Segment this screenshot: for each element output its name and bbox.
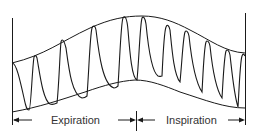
arrowhead-right-icon: [239, 118, 245, 123]
expiration-label: Expiration: [51, 114, 100, 126]
respiratory-waveform-diagram: [0, 0, 256, 140]
pressure-waveform: [12, 17, 245, 110]
lower-envelope: [12, 80, 245, 112]
arrowhead-center-right-icon: [137, 118, 143, 123]
arrowhead-center-left-icon: [130, 118, 136, 123]
arrowhead-left-icon: [13, 118, 19, 123]
inspiration-label: Inspiration: [166, 114, 217, 126]
